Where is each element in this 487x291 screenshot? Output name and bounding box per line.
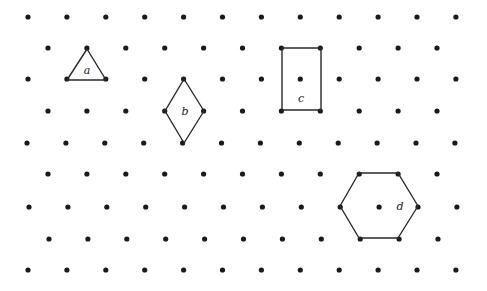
grid-dot <box>24 140 29 145</box>
grid-dot <box>377 204 382 209</box>
grid-dot <box>240 171 245 176</box>
grid-dot <box>45 45 50 50</box>
grid-dot <box>414 14 419 19</box>
grid-dot <box>337 267 342 272</box>
grid-dot <box>396 45 401 50</box>
grid-dot <box>240 108 245 113</box>
shape-c-label: c <box>298 92 304 105</box>
grid-dot <box>84 171 89 176</box>
grid-dot <box>25 14 30 19</box>
grid-dot <box>65 204 70 209</box>
grid-dot <box>201 45 206 50</box>
grid-dot <box>162 171 167 176</box>
grid-dot <box>453 14 458 19</box>
grid-dot <box>64 267 69 272</box>
grid-dot <box>181 14 186 19</box>
grid-dot <box>259 14 264 19</box>
grid-dot <box>221 204 226 209</box>
grid-dot <box>357 108 362 113</box>
grid-dot <box>434 45 439 50</box>
grid-dot <box>396 108 401 113</box>
grid-dot <box>163 236 168 241</box>
grid-dot <box>413 140 418 145</box>
shape-a-triangle: a <box>67 49 106 80</box>
grid-dot <box>220 267 225 272</box>
grid-dot <box>103 14 108 19</box>
grid-dot <box>299 204 304 209</box>
grid-dot <box>84 108 89 113</box>
grid-dot <box>45 171 50 176</box>
grid-dot <box>318 171 323 176</box>
grid-dot <box>182 204 187 209</box>
grid-dot <box>181 267 186 272</box>
grid-dot <box>143 204 148 209</box>
shape-d-label: d <box>396 200 403 213</box>
grid-dot <box>142 267 147 272</box>
grid-dot <box>376 14 381 19</box>
grid-dot <box>414 267 419 272</box>
grid-dot <box>279 171 284 176</box>
grid-dot <box>123 108 128 113</box>
grid-dot <box>123 171 128 176</box>
grid-dot <box>142 76 147 81</box>
grid-dot <box>241 236 246 241</box>
grid-dot <box>336 140 341 145</box>
grid-dot <box>45 108 50 113</box>
grid-dot <box>25 267 30 272</box>
grid-dot <box>414 76 419 81</box>
grid-dot <box>298 76 303 81</box>
grid-dot <box>454 204 459 209</box>
grid-dot <box>376 267 381 272</box>
grid-dot <box>434 171 439 176</box>
grid-dot <box>376 76 381 81</box>
grid-dot <box>162 45 167 50</box>
grid-dot <box>123 45 128 50</box>
grid-dot <box>202 236 207 241</box>
grid-dot <box>319 236 324 241</box>
grid-dot <box>26 204 31 209</box>
shape-a-label: a <box>84 64 91 77</box>
dot-grid-diagram: a b c d <box>0 0 487 291</box>
grid-dot <box>435 236 440 241</box>
grid-dot <box>434 108 439 113</box>
grid-dot <box>63 140 68 145</box>
grid-dot <box>104 204 109 209</box>
grid-dot <box>85 236 90 241</box>
grid-dot <box>25 76 30 81</box>
grid-dot <box>357 45 362 50</box>
grid-dot <box>220 14 225 19</box>
grid-dot <box>103 267 108 272</box>
grid-dot <box>142 14 147 19</box>
grid-dot <box>453 267 458 272</box>
grid-dot <box>220 76 225 81</box>
grid-dot <box>124 236 129 241</box>
grid-dot <box>298 267 303 272</box>
grid-dot <box>337 76 342 81</box>
grid-dot <box>260 204 265 209</box>
grid-dot <box>259 267 264 272</box>
grid-dot <box>375 140 380 145</box>
grid-dot <box>258 140 263 145</box>
grid-dot <box>297 140 302 145</box>
grid-dot <box>453 76 458 81</box>
shape-b-label: b <box>181 105 188 118</box>
grid-dot <box>219 140 224 145</box>
grid-dot <box>141 140 146 145</box>
grid-dot <box>102 140 107 145</box>
grid-dot <box>259 76 264 81</box>
shapes-layer: a b c d <box>67 48 418 238</box>
grid-dot <box>201 171 206 176</box>
grid-dot <box>337 14 342 19</box>
grid-dot <box>64 14 69 19</box>
grid-dot <box>298 14 303 19</box>
grid-dot <box>240 45 245 50</box>
grid-dot <box>280 236 285 241</box>
shape-b-rhombus: b <box>165 79 204 143</box>
grid-dot <box>46 236 51 241</box>
grid-dot <box>452 140 457 145</box>
